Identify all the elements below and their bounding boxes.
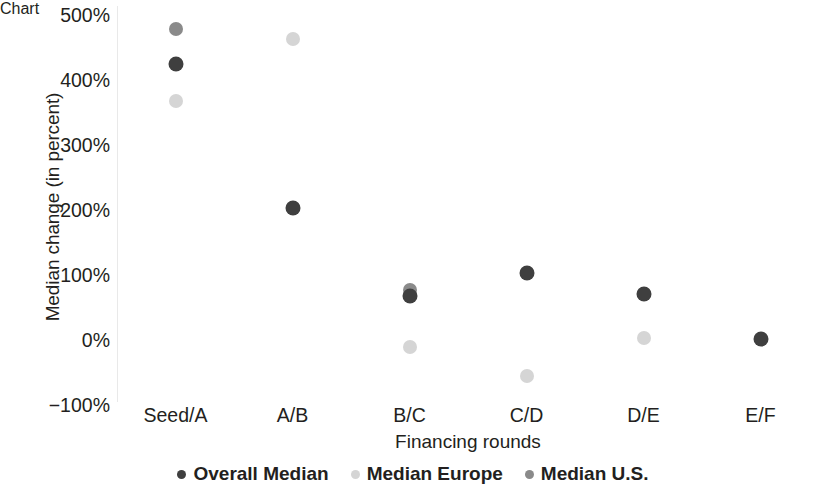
- legend-item[interactable]: Median Europe: [351, 463, 503, 485]
- x-axis-tick-label: Seed/A: [144, 404, 208, 427]
- data-point: [285, 201, 300, 216]
- legend-dot-icon: [177, 470, 186, 479]
- data-point: [636, 286, 651, 301]
- data-point: [519, 266, 534, 281]
- data-point: [169, 22, 183, 36]
- y-axis-line: [117, 6, 118, 402]
- legend-label: Overall Median: [193, 463, 328, 485]
- y-axis-tick-label: 100%: [0, 264, 110, 287]
- y-axis-tick-labels: 500%400%300%200%100%0%−100%: [0, 0, 110, 494]
- y-axis-tick-label: 400%: [0, 69, 110, 92]
- scatter-chart: Median change (in percent) 500%400%300%2…: [0, 0, 826, 494]
- data-point: [637, 331, 651, 345]
- chart-legend: Overall MedianMedian EuropeMedian U.S.: [0, 463, 826, 485]
- legend-item[interactable]: Median U.S.: [525, 463, 649, 485]
- y-axis-tick-label: 500%: [0, 4, 110, 27]
- legend-label: Median Europe: [367, 463, 503, 485]
- y-axis-tick-label: −100%: [0, 394, 110, 417]
- data-point: [169, 94, 183, 108]
- x-axis-tick-label: A/B: [277, 404, 308, 427]
- legend-label: Median U.S.: [541, 463, 649, 485]
- legend-dot-icon: [525, 470, 534, 479]
- data-point: [168, 56, 183, 71]
- data-point: [403, 340, 417, 354]
- y-axis-tick-label: 300%: [0, 134, 110, 157]
- legend-dot-icon: [351, 470, 360, 479]
- data-point: [753, 331, 768, 346]
- data-point: [402, 289, 417, 304]
- x-axis-tick-label: E/F: [745, 404, 775, 427]
- x-axis-tick-labels: Seed/AA/BB/CC/DD/EE/F: [117, 404, 819, 430]
- y-axis-tick-label: 0%: [0, 329, 110, 352]
- x-axis-tick-label: D/E: [627, 404, 660, 427]
- plot-area: [117, 6, 819, 402]
- y-axis-tick-label: 200%: [0, 199, 110, 222]
- x-axis-tick-label: B/C: [393, 404, 426, 427]
- x-axis-tick-label: C/D: [510, 404, 544, 427]
- data-point: [520, 369, 534, 383]
- x-axis-title: Financing rounds: [117, 431, 819, 453]
- data-point: [286, 32, 300, 46]
- legend-item[interactable]: Overall Median: [177, 463, 328, 485]
